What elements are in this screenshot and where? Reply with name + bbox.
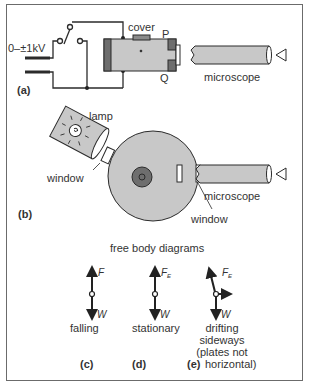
microscope-b [196, 165, 286, 183]
plate-Q-label: Q [160, 72, 169, 84]
caption-falling: falling [70, 322, 99, 334]
cover-label: cover [128, 21, 155, 33]
force-label-F-c: F [98, 267, 105, 278]
junction-dot [85, 86, 89, 90]
caption-drifting: drifting [192, 322, 252, 334]
voltage-label: 0–±1kV [8, 42, 45, 54]
window-right-label: window [191, 213, 228, 225]
force-label-W-d: W [160, 309, 171, 320]
plate-chamber [104, 35, 180, 71]
panel-e-label: (e) [187, 358, 200, 370]
panel-d-label: (d) [132, 358, 146, 370]
caption-sideways: sideways [192, 334, 252, 346]
caption-stationary: stationary [132, 322, 180, 334]
cover-plate [133, 35, 150, 40]
chamber-top-view [101, 131, 198, 221]
panel-c-label: (c) [80, 358, 93, 370]
window-right-pane [177, 165, 182, 182]
force-label-W-e: W [221, 309, 232, 320]
free-body-heading: free body diagrams [110, 242, 204, 254]
microscope-label-a: microscope [204, 71, 260, 83]
microscope-a [191, 46, 286, 64]
caption-plates-not: (plates not [189, 346, 255, 358]
window-left-label: window [47, 172, 84, 184]
force-label-W-c: W [97, 309, 108, 320]
microscope-label-b: microscope [204, 190, 260, 202]
lamp-label: lamp [89, 110, 113, 122]
panel-b-label: (b) [18, 208, 32, 220]
force-label-F-e: FE [222, 267, 233, 279]
fbd-c [90, 271, 95, 315]
oil-drop [140, 50, 142, 52]
caption-horizontal: horizontal) [205, 358, 256, 370]
panel-a-label: (a) [17, 84, 30, 96]
plate-P-label: P [162, 28, 169, 40]
force-label-F-d: FE [161, 267, 172, 279]
fbd-d [153, 271, 158, 315]
